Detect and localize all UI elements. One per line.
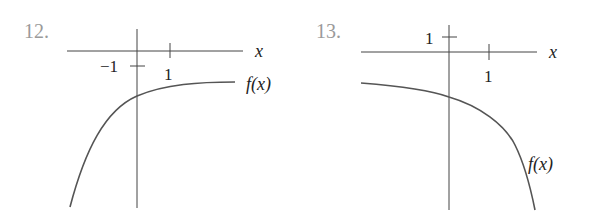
graphs: x −1 1 f(x) x 1 1 f(x)	[0, 0, 597, 224]
graph-13	[361, 25, 537, 210]
x-axis-label: x	[254, 41, 263, 61]
y-tick-label: 1	[425, 29, 434, 48]
curve-f	[70, 82, 235, 207]
graph-12	[67, 29, 243, 208]
curve-label: f(x)	[246, 74, 271, 95]
curve-f	[361, 83, 535, 210]
y-tick-label: −1	[100, 57, 118, 76]
x-axis-label: x	[548, 42, 557, 62]
x-tick-label: 1	[164, 65, 173, 84]
curve-label: f(x)	[528, 154, 553, 175]
x-tick-label: 1	[484, 67, 493, 86]
